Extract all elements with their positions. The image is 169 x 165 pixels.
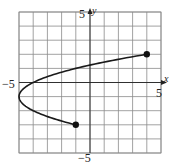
endpoint-dot (73, 122, 79, 128)
y-max-tick-label: 5 (79, 7, 85, 21)
x-max-tick-label: 5 (156, 86, 162, 100)
y-axis-label: y (91, 5, 97, 16)
parabola-curve (19, 54, 147, 125)
y-min-tick-label: −5 (78, 151, 91, 165)
parabola-chart: −5 5 5 −5 x y (0, 0, 169, 165)
endpoint-dot (144, 51, 150, 57)
x-min-tick-label: −5 (2, 77, 15, 91)
endpoints (73, 51, 150, 128)
x-axis-label: x (163, 73, 169, 84)
